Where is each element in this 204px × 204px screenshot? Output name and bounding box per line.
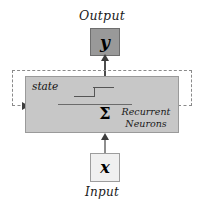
input-to-cell-arrow-line xyxy=(104,140,106,154)
feedback-loop-bottom-right-segment xyxy=(178,105,192,106)
activation-axis-line xyxy=(58,104,132,105)
recurrent-neurons-caption-line2: Neurons xyxy=(116,118,176,130)
feedback-loop-top-segment xyxy=(12,70,192,71)
step-function-icon-riser xyxy=(94,87,95,97)
recurrent-neuron-diagram: Output y state Σ Recurrent Neurons x Inp… xyxy=(0,0,204,204)
feedback-loop-right-segment xyxy=(191,70,192,106)
output-node-y: y xyxy=(90,28,120,56)
state-label: state xyxy=(32,80,58,92)
cell-to-output-arrow-line xyxy=(104,60,106,76)
feedback-loop-left-segment xyxy=(12,70,13,106)
summation-sigma-symbol: Σ xyxy=(92,106,118,122)
input-to-cell-arrow-head-icon xyxy=(101,133,109,140)
input-label: Input xyxy=(0,185,204,199)
input-node-symbol: x xyxy=(91,160,119,176)
step-function-icon-high-segment xyxy=(93,87,114,88)
recurrent-neurons-caption: Recurrent Neurons xyxy=(116,106,176,129)
output-label: Output xyxy=(0,8,204,23)
recurrent-neurons-caption-line1: Recurrent xyxy=(116,106,176,118)
step-function-icon-low-segment xyxy=(74,96,94,97)
output-node-symbol: y xyxy=(91,34,119,51)
cell-to-output-arrow-head-icon xyxy=(101,54,109,61)
input-node-x: x xyxy=(90,153,120,182)
